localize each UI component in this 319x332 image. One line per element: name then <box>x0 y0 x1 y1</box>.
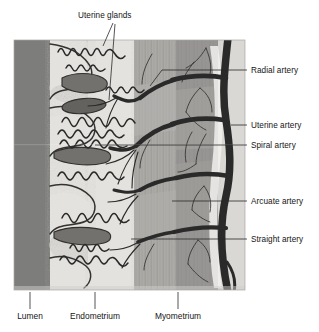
panel-grain-overlay <box>14 40 245 290</box>
label-spiral-artery: Spiral artery <box>251 141 297 150</box>
label-endometrium: Endometrium <box>70 311 120 321</box>
label-uterine-artery: Uterine artery <box>251 121 302 130</box>
label-myometrium: Myometrium <box>155 311 201 321</box>
label-lumen: Lumen <box>17 311 43 321</box>
label-straight-artery: Straight artery <box>251 235 304 244</box>
label-arcuate-artery: Arcuate artery <box>251 197 304 206</box>
diagram-canvas: Uterine glands Radial artery Uterine art… <box>0 0 319 332</box>
label-uterine-glands: Uterine glands <box>78 11 132 20</box>
illustration-panel <box>14 38 245 292</box>
label-radial-artery: Radial artery <box>251 66 299 75</box>
uterus-blood-supply-figure: Uterine glands Radial artery Uterine art… <box>0 0 319 332</box>
